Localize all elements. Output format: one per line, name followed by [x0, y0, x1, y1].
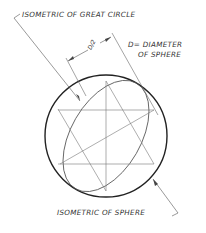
label-great-circle: ISOMETRIC OF GREAT CIRCLE: [22, 11, 135, 19]
sphere-isometric-diagram: ISOMETRIC OF GREAT CIRCLE D= DIAMETER OF…: [0, 0, 206, 233]
construction-line: [106, 81, 154, 164]
label-diameter-line1: D= DIAMETER: [128, 41, 182, 49]
leader-line-great-circle: [14, 14, 20, 18]
arrowhead: [76, 94, 80, 101]
construction-line: [58, 109, 106, 191]
arrowhead: [68, 56, 74, 61]
arrowhead: [105, 37, 111, 42]
leader-line-sphere: [172, 213, 178, 216]
label-diameter-line2: OF SPHERE: [138, 51, 181, 59]
diagram-drawing: [0, 0, 206, 233]
label-sphere: ISOMETRIC OF SPHERE: [57, 209, 145, 217]
extension-line: [66, 58, 86, 96]
